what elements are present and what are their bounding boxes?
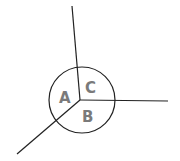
region-label-b: B <box>82 108 93 126</box>
ray-down-left <box>17 100 80 154</box>
region-label-c: C <box>85 79 96 97</box>
ray-right <box>80 100 168 101</box>
three-ray-circle-diagram: A B C <box>0 0 180 161</box>
region-label-a: A <box>59 89 71 107</box>
ray-up <box>72 6 80 100</box>
